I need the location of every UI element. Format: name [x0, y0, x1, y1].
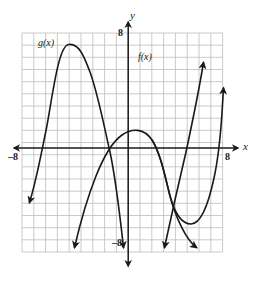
y-axis-tick-positive: 8 — [118, 28, 123, 38]
x-axis-tick-positive: 8 — [225, 152, 230, 162]
x-axis-tick-negative: –8 — [8, 152, 18, 162]
curve-f-right-descend — [152, 140, 197, 248]
x-axis-label: x — [243, 141, 248, 152]
y-axis-label: y — [130, 10, 135, 21]
curve-f — [75, 88, 224, 248]
curve-label-g: g(x) — [38, 38, 54, 48]
y-axis-tick-negative: –8 — [112, 238, 122, 248]
curve-label-f: f(x) — [138, 52, 152, 62]
grid-lines — [22, 33, 223, 252]
curve-g — [30, 44, 124, 247]
